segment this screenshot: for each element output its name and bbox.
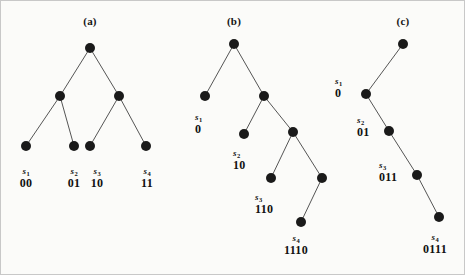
tree-edge bbox=[301, 178, 322, 222]
symbol-label-a-s1: s100 bbox=[20, 167, 33, 190]
tree-edge bbox=[119, 96, 146, 146]
symbol-subscript: 3 bbox=[383, 164, 386, 171]
symbol-subscript: 1 bbox=[199, 116, 202, 123]
symbol-label-b-s4: s41110 bbox=[284, 234, 308, 257]
tree-edge bbox=[234, 44, 264, 96]
tree-node-internal-3 bbox=[317, 173, 327, 183]
tree-node-root bbox=[85, 43, 95, 53]
symbol-subscript: 4 bbox=[436, 236, 439, 243]
figure-canvas: (a)s100s201s310s411(b)s10s210s3110s41110… bbox=[0, 0, 465, 275]
codeword-value: 110 bbox=[255, 203, 273, 216]
symbol-subscript: 4 bbox=[297, 237, 300, 244]
codeword-value: 0111 bbox=[423, 243, 447, 256]
symbol-name: s4 bbox=[284, 234, 308, 243]
codeword-value: 01 bbox=[68, 177, 81, 190]
panel-a bbox=[21, 43, 151, 151]
symbol-label-c-s2: s201 bbox=[357, 116, 370, 139]
tree-edge bbox=[60, 48, 90, 96]
symbol-label-a-s2: s201 bbox=[68, 167, 81, 190]
codeword-value: 1110 bbox=[284, 244, 308, 257]
tree-node-root bbox=[229, 39, 239, 49]
panel-title-b: (b) bbox=[227, 15, 241, 27]
tree-node-node-s2 bbox=[384, 126, 394, 136]
symbol-label-c-s1: s10 bbox=[335, 77, 342, 100]
tree-edge bbox=[271, 132, 293, 178]
symbol-name: s3 bbox=[379, 161, 397, 170]
tree-node-internal-2 bbox=[288, 127, 298, 137]
symbol-name: s1 bbox=[195, 113, 202, 122]
symbol-name: s4 bbox=[423, 233, 447, 242]
symbol-label-b-s2: s210 bbox=[233, 149, 246, 172]
tree-edge bbox=[205, 44, 234, 96]
tree-node-internal-right bbox=[114, 91, 124, 101]
codeword-value: 10 bbox=[91, 177, 104, 190]
symbol-subscript: 2 bbox=[237, 152, 240, 159]
tree-edge bbox=[60, 96, 74, 146]
codeword-value: 0 bbox=[195, 123, 202, 136]
tree-node-leaf-s4 bbox=[296, 217, 306, 227]
tree-edge bbox=[366, 44, 403, 94]
symbol-name: s1 bbox=[20, 167, 33, 176]
tree-node-node-s3 bbox=[412, 170, 422, 180]
symbol-name: s2 bbox=[357, 116, 370, 125]
tree-node-leaf-s3 bbox=[85, 141, 95, 151]
symbol-subscript: 3 bbox=[259, 196, 262, 203]
codeword-value: 00 bbox=[20, 177, 33, 190]
tree-node-leaf-s1 bbox=[21, 141, 31, 151]
symbol-subscript: 2 bbox=[361, 119, 364, 126]
tree-edge bbox=[26, 96, 60, 146]
symbol-subscript: 1 bbox=[339, 80, 342, 87]
tree-edge bbox=[90, 96, 119, 146]
tree-node-leaf-s2 bbox=[239, 129, 249, 139]
symbol-label-b-s1: s10 bbox=[195, 113, 202, 136]
symbol-subscript: 3 bbox=[98, 170, 101, 177]
tree-edge bbox=[264, 96, 293, 132]
symbol-name: s4 bbox=[141, 167, 153, 176]
tree-edge bbox=[293, 132, 322, 178]
tree-edge bbox=[244, 96, 264, 134]
symbol-name: s3 bbox=[255, 193, 273, 202]
symbol-label-b-s3: s3110 bbox=[255, 193, 273, 216]
codeword-value: 11 bbox=[141, 177, 153, 190]
codeword-value: 01 bbox=[357, 126, 370, 139]
tree-node-leaf-s3 bbox=[266, 173, 276, 183]
tree-edge bbox=[417, 175, 439, 217]
tree-node-internal-1 bbox=[259, 91, 269, 101]
tree-edge bbox=[90, 48, 119, 96]
symbol-label-a-s3: s310 bbox=[91, 167, 104, 190]
codeword-value: 0 bbox=[335, 87, 342, 100]
symbol-subscript: 2 bbox=[75, 170, 78, 177]
symbol-name: s3 bbox=[91, 167, 104, 176]
tree-node-leaf-s2 bbox=[69, 141, 79, 151]
tree-node-leaf-s4 bbox=[141, 141, 151, 151]
tree-node-node-s1 bbox=[361, 89, 371, 99]
symbol-subscript: 4 bbox=[148, 170, 151, 177]
panel-title-c: (c) bbox=[397, 15, 410, 27]
tree-node-leaf-s1 bbox=[200, 91, 210, 101]
symbol-name: s1 bbox=[335, 77, 342, 86]
symbol-subscript: 1 bbox=[27, 170, 30, 177]
codeword-value: 10 bbox=[233, 159, 246, 172]
panel-title-a: (a) bbox=[83, 15, 96, 27]
tree-diagram-svg bbox=[1, 1, 465, 275]
panel-c bbox=[361, 39, 444, 222]
symbol-name: s2 bbox=[233, 149, 246, 158]
symbol-label-a-s4: s411 bbox=[141, 167, 153, 190]
codeword-value: 011 bbox=[379, 171, 397, 184]
tree-node-node-s4 bbox=[434, 212, 444, 222]
symbol-name: s2 bbox=[68, 167, 81, 176]
tree-node-root bbox=[398, 39, 408, 49]
symbol-label-c-s3: s3011 bbox=[379, 161, 397, 184]
symbol-label-c-s4: s40111 bbox=[423, 233, 447, 256]
tree-node-internal-left bbox=[55, 91, 65, 101]
